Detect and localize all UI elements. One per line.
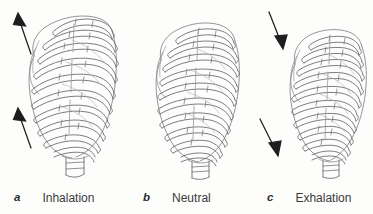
caption-neutral: b Neutral [143, 182, 211, 214]
rib-cage-illustration-exhalation [249, 0, 373, 182]
arrow-down-upper [269, 12, 287, 49]
caption-label-exhalation: Exhalation [295, 192, 351, 204]
arrow-up-upper [14, 13, 32, 54]
rib-cage-breathing-figure: a Inhalation b Neutral c Exhalation [0, 0, 373, 214]
panel-neutral [125, 0, 249, 182]
panel-exhalation [249, 0, 373, 182]
caption-label-neutral: Neutral [172, 192, 211, 204]
rib-cage-illustration-inhalation [0, 0, 124, 182]
caption-exhalation: c Exhalation [267, 182, 351, 214]
arrow-up-lower [14, 108, 32, 148]
caption-letter-a: a [14, 192, 20, 204]
caption-letter-c: c [267, 192, 273, 204]
caption-row: a Inhalation b Neutral c Exhalation [0, 182, 373, 214]
caption-letter-b: b [143, 192, 150, 204]
arrow-down-lower [260, 119, 281, 156]
panel-inhalation [0, 0, 124, 182]
caption-inhalation: a Inhalation [14, 182, 94, 214]
rib-cage-illustration-neutral [125, 0, 249, 182]
caption-label-inhalation: Inhalation [42, 192, 94, 204]
